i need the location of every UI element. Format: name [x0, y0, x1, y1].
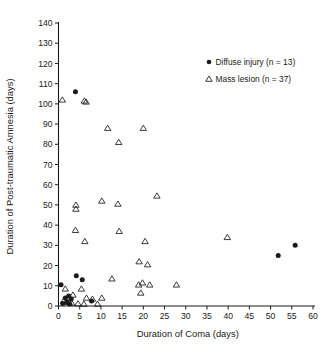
y-tick-label: 60 — [43, 180, 53, 190]
data-point-mass-lesion — [83, 295, 89, 300]
y-axis-title: Duration of Post-traumatic Amnesia (days… — [4, 78, 15, 254]
y-tick-label: 130 — [38, 38, 53, 48]
x-tick-label: 45 — [245, 311, 255, 321]
y-tick-label: 90 — [43, 119, 53, 129]
scatter-plot-figure: 0102030405060708090100110120130140 05101… — [0, 0, 332, 361]
data-point-mass-lesion — [99, 198, 105, 203]
data-points-layer — [59, 89, 298, 306]
y-axis-ticks: 0102030405060708090100110120130140 — [38, 18, 58, 311]
data-point-mass-lesion — [138, 290, 144, 295]
x-tick-label: 35 — [202, 311, 212, 321]
data-point-mass-lesion — [173, 282, 179, 287]
data-point-mass-lesion — [154, 193, 160, 198]
x-tick-label: 10 — [96, 311, 106, 321]
legend-marker-filled-circle-icon — [207, 60, 212, 65]
y-tick-label: 110 — [39, 79, 53, 89]
x-axis-ticks: 051015202530354045505560 — [56, 306, 318, 321]
x-tick-label: 30 — [181, 311, 191, 321]
data-point-diffuse-injury — [80, 277, 85, 282]
data-point-mass-lesion — [116, 228, 122, 233]
chart-canvas: 0102030405060708090100110120130140 05101… — [0, 0, 332, 361]
data-point-mass-lesion — [140, 125, 146, 130]
legend-marker-open-triangle-icon — [206, 76, 212, 81]
data-point-mass-lesion — [59, 97, 65, 102]
data-point-mass-lesion — [99, 295, 105, 300]
data-point-mass-lesion — [224, 234, 230, 239]
x-tick-label: 0 — [56, 311, 61, 321]
legend-entry-label: Diffuse injury (n = 13) — [216, 57, 296, 67]
x-tick-label: 20 — [139, 311, 149, 321]
data-point-mass-lesion — [144, 262, 150, 267]
y-tick-label: 70 — [43, 160, 53, 170]
data-point-mass-lesion — [75, 301, 81, 306]
x-tick-label: 5 — [77, 311, 82, 321]
y-tick-label: 40 — [43, 220, 53, 230]
legend-entry: Diffuse injury (n = 13) — [207, 57, 296, 67]
data-point-diffuse-injury — [74, 273, 79, 278]
chart-legend: Diffuse injury (n = 13)Mass lesion (n = … — [206, 57, 296, 84]
y-tick-label: 120 — [38, 59, 53, 69]
y-tick-label: 0 — [48, 301, 53, 311]
data-point-diffuse-injury — [293, 243, 298, 248]
data-point-mass-lesion — [62, 286, 68, 291]
series-mass-lesion — [59, 97, 230, 306]
data-point-mass-lesion — [109, 276, 115, 281]
data-point-mass-lesion — [136, 259, 142, 264]
data-point-mass-lesion — [72, 227, 78, 232]
x-tick-label: 25 — [160, 311, 170, 321]
x-tick-label: 50 — [266, 311, 276, 321]
y-tick-label: 50 — [43, 200, 53, 210]
y-tick-label: 10 — [43, 281, 53, 291]
data-point-diffuse-injury — [73, 89, 78, 94]
data-point-mass-lesion — [116, 139, 122, 144]
x-tick-label: 15 — [117, 311, 127, 321]
data-point-diffuse-injury — [276, 253, 281, 258]
y-tick-label: 30 — [43, 240, 53, 250]
data-point-mass-lesion — [115, 201, 121, 206]
legend-entry: Mass lesion (n = 37) — [206, 74, 292, 84]
y-tick-label: 100 — [38, 99, 53, 109]
x-axis-title: Duration of Coma (days) — [137, 328, 239, 339]
y-tick-label: 80 — [43, 139, 53, 149]
data-point-mass-lesion — [82, 238, 88, 243]
y-tick-label: 20 — [43, 261, 53, 271]
data-point-mass-lesion — [78, 286, 84, 291]
data-point-diffuse-injury — [59, 282, 64, 287]
legend-entry-label: Mass lesion (n = 37) — [216, 74, 292, 84]
y-tick-label: 140 — [38, 18, 53, 28]
x-tick-label: 40 — [223, 311, 233, 321]
data-point-mass-lesion — [142, 238, 148, 243]
series-diffuse-injury — [59, 89, 298, 306]
x-tick-label: 55 — [287, 311, 297, 321]
data-point-mass-lesion — [146, 282, 152, 287]
x-tick-label: 60 — [308, 311, 318, 321]
data-point-mass-lesion — [104, 125, 110, 130]
